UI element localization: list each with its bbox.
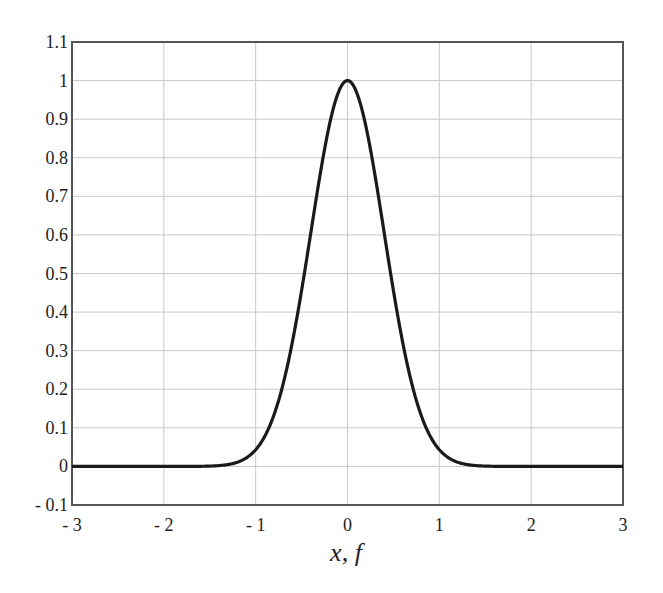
y-tick-label: 1.1 — [46, 32, 69, 52]
y-tick-label: 0.6 — [46, 225, 69, 245]
x-tick-label: - 3 — [62, 515, 82, 535]
y-tick-label: 0.9 — [46, 109, 69, 129]
y-axis-tick-labels: - 0.100.10.20.30.40.50.60.70.80.911.1 — [35, 32, 68, 515]
y-tick-label: 0.4 — [46, 302, 69, 322]
x-tick-label: 1 — [435, 515, 444, 535]
y-tick-label: 0.2 — [46, 379, 69, 399]
y-tick-label: 0.5 — [46, 264, 69, 284]
gaussian-chart: - 0.100.10.20.30.40.50.60.70.80.911.1 - … — [0, 0, 663, 593]
x-axis-tick-labels: - 3- 2- 10123 — [62, 515, 627, 535]
y-tick-label: 0.3 — [46, 341, 69, 361]
y-tick-label: 0 — [59, 456, 68, 476]
y-tick-label: - 0.1 — [35, 495, 68, 515]
x-tick-label: 2 — [527, 515, 536, 535]
x-tick-label: 3 — [619, 515, 628, 535]
x-axis-label: x, f — [329, 538, 366, 567]
y-tick-label: 0.1 — [46, 418, 69, 438]
x-tick-label: - 1 — [246, 515, 266, 535]
grid-lines — [72, 42, 623, 505]
x-tick-label: 0 — [343, 515, 352, 535]
y-tick-label: 1 — [59, 71, 68, 91]
y-tick-label: 0.7 — [46, 186, 69, 206]
y-tick-label: 0.8 — [46, 148, 69, 168]
x-tick-label: - 2 — [154, 515, 174, 535]
